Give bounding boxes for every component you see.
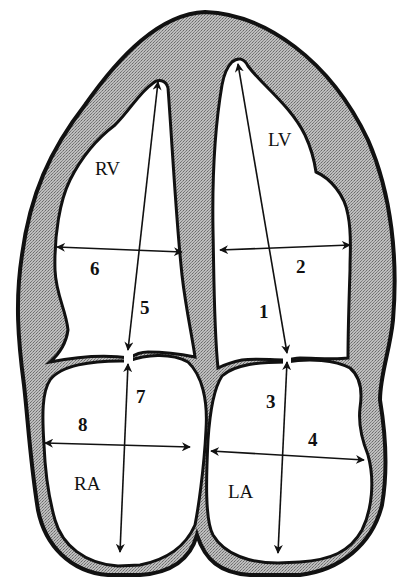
label-rv: RV [95,158,120,179]
label-8: 8 [78,414,88,435]
la-cavity [207,360,372,563]
label-lv: LV [268,129,292,150]
label-7: 7 [136,386,146,407]
tricuspid-gap [124,352,133,364]
label-ra: RA [74,473,101,494]
label-3: 3 [266,391,276,412]
heart-diagram: RV LV RA LA 1 2 3 4 5 6 7 8 [0,0,406,581]
label-la: LA [228,481,254,502]
label-6: 6 [90,258,100,279]
label-5: 5 [140,297,150,318]
label-1: 1 [259,301,269,322]
label-2: 2 [296,256,306,277]
label-4: 4 [308,429,318,450]
